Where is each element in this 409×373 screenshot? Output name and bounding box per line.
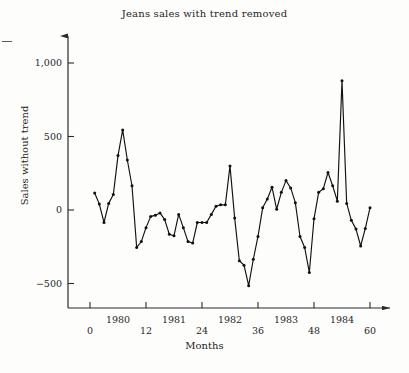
data-point — [308, 271, 311, 274]
data-point — [271, 186, 274, 189]
data-point — [210, 213, 213, 216]
x-tick-label: 0 — [70, 325, 110, 336]
data-point — [257, 235, 260, 238]
data-point — [327, 171, 330, 174]
data-point — [359, 245, 362, 248]
data-point — [98, 203, 101, 206]
data-point — [336, 200, 339, 203]
x-tick-label: 48 — [294, 325, 334, 336]
data-point — [275, 208, 278, 211]
data-point — [233, 217, 236, 220]
data-point — [145, 226, 148, 229]
data-point — [149, 215, 152, 218]
data-point — [154, 214, 157, 217]
y-tick-label: −500 — [10, 278, 62, 289]
data-point — [103, 221, 106, 224]
data-point — [215, 205, 218, 208]
data-point — [355, 228, 358, 231]
data-point — [187, 240, 190, 243]
data-point — [261, 206, 264, 209]
data-point — [182, 226, 185, 229]
data-point — [163, 218, 166, 221]
data-point — [219, 203, 222, 206]
x-tick-label: 60 — [350, 325, 390, 336]
data-point — [196, 221, 199, 224]
data-point — [266, 197, 269, 200]
data-point — [299, 235, 302, 238]
x-year-label: 1982 — [210, 314, 250, 325]
data-point — [205, 221, 208, 224]
data-point — [201, 221, 204, 224]
data-point — [173, 234, 176, 237]
data-point — [159, 211, 162, 214]
y-tick-label: 1,000 — [10, 57, 62, 68]
y-tick-label: 500 — [10, 131, 62, 142]
data-point — [93, 192, 96, 195]
data-point — [135, 246, 138, 249]
x-tick-label: 36 — [238, 325, 278, 336]
x-year-label: 1984 — [322, 314, 362, 325]
data-point — [168, 233, 171, 236]
x-year-label: 1980 — [98, 314, 138, 325]
data-point-markers — [93, 79, 371, 287]
data-point — [313, 217, 316, 220]
data-point — [224, 203, 227, 206]
data-point — [280, 191, 283, 194]
x-tick-label: 24 — [182, 325, 222, 336]
data-point — [243, 264, 246, 267]
data-point — [331, 184, 334, 187]
x-year-label: 1983 — [266, 314, 306, 325]
data-point — [247, 284, 250, 287]
x-tick-marks — [90, 302, 370, 308]
data-point — [177, 213, 180, 216]
data-point — [317, 191, 320, 194]
data-point — [350, 219, 353, 222]
data-point — [191, 242, 194, 245]
data-point — [341, 79, 344, 82]
x-tick-label: 12 — [126, 325, 166, 336]
data-point — [112, 193, 115, 196]
chart-figure: Jeans sales with trend removed Sales wit… — [0, 0, 409, 373]
data-point — [252, 258, 255, 261]
data-point — [121, 128, 124, 131]
data-point — [107, 202, 110, 205]
y-tick-marks — [68, 63, 74, 284]
data-point — [238, 259, 241, 262]
data-point — [303, 246, 306, 249]
data-point — [126, 159, 129, 162]
data-point — [140, 240, 143, 243]
data-point — [131, 184, 134, 187]
data-point — [294, 201, 297, 204]
data-point — [117, 154, 120, 157]
data-point — [229, 164, 232, 167]
y-tick-label: 0 — [10, 204, 62, 215]
data-series-line — [95, 81, 370, 286]
x-year-label: 1981 — [154, 314, 194, 325]
data-point — [364, 227, 367, 230]
data-point — [369, 206, 372, 209]
data-point — [289, 186, 292, 189]
data-point — [322, 187, 325, 190]
data-point — [285, 179, 288, 182]
data-point — [345, 202, 348, 205]
